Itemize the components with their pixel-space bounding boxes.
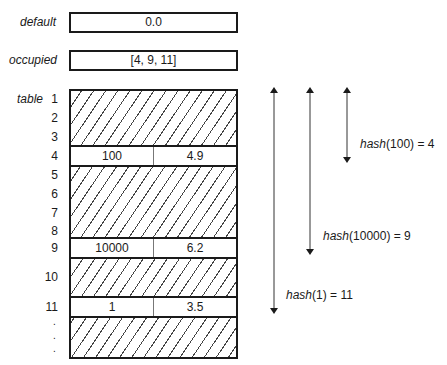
hash-fn: hash — [323, 229, 349, 243]
annotation-hash-10000: hash(10000) = 9 — [323, 229, 411, 243]
annotation-hash-1: hash(1) = 11 — [286, 288, 353, 302]
hash-arg: (10000) — [349, 229, 390, 243]
hash-result: = 9 — [390, 229, 410, 243]
hash-fn: hash — [286, 288, 312, 302]
hash-fn: hash — [360, 137, 386, 151]
hash-arg: (1) — [312, 288, 327, 302]
annotation-hash-100: hash(100) = 4 — [360, 137, 434, 151]
hash-result: = 11 — [327, 288, 353, 302]
hash-arg: (100) — [386, 137, 414, 151]
hash-arrows — [0, 0, 447, 365]
hash-result: = 4 — [414, 137, 434, 151]
